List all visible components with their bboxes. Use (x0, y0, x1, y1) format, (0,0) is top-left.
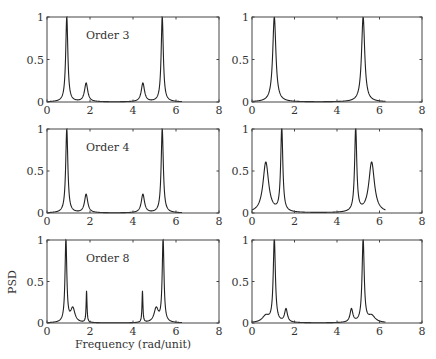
y-tick-label: 1 (242, 11, 249, 24)
x-tick-label: 4 (130, 215, 137, 228)
x-tick-label: 4 (130, 104, 137, 117)
x-tick-label: 0 (249, 325, 256, 338)
x-tick-label: 4 (334, 215, 341, 228)
x-tick-label: 6 (376, 104, 383, 117)
x-tick-label: 4 (334, 104, 341, 117)
subplot-3-1: 0246800.51Order 8 (27, 234, 223, 338)
x-tick-label: 6 (376, 215, 383, 228)
order-annotation: Order 4 (86, 141, 130, 154)
x-tick-label: 2 (87, 215, 94, 228)
x-tick-label: 8 (419, 325, 426, 338)
x-tick-label: 0 (44, 104, 51, 117)
y-axis-label: PSD (6, 270, 19, 294)
subplot-1-2: 0246800.51 (232, 11, 426, 117)
x-tick-label: 0 (249, 104, 256, 117)
y-tick-label: 1 (242, 123, 249, 136)
subplot-3-2: 0246800.51 (232, 234, 426, 338)
x-tick-label: 2 (87, 325, 94, 338)
order-annotation: Order 3 (86, 29, 130, 42)
y-tick-label: 1 (37, 234, 44, 247)
y-tick-label: 0 (37, 317, 44, 330)
x-tick-label: 8 (419, 215, 426, 228)
y-tick-label: 0.5 (27, 276, 45, 289)
x-tick-label: 6 (173, 104, 180, 117)
subplot-2-2: 0246800.51 (232, 123, 426, 228)
x-tick-label: 6 (173, 325, 180, 338)
y-tick-label: 1 (37, 11, 44, 24)
x-tick-label: 8 (216, 215, 223, 228)
y-tick-label: 0.5 (232, 276, 250, 289)
x-tick-label: 2 (291, 104, 298, 117)
y-tick-label: 0.5 (27, 165, 45, 178)
order-annotation: Order 8 (86, 252, 130, 265)
subplot-1-1: 0246800.51Order 3 (27, 11, 223, 117)
y-tick-label: 0.5 (27, 54, 45, 67)
psd-curve (252, 240, 385, 323)
x-tick-label: 0 (249, 215, 256, 228)
psd-curve (252, 129, 385, 212)
x-tick-label: 6 (173, 215, 180, 228)
axes-box (47, 240, 219, 323)
x-tick-label: 4 (334, 325, 341, 338)
y-tick-label: 1 (242, 234, 249, 247)
psd-curve (252, 17, 385, 102)
x-tick-label: 0 (44, 325, 51, 338)
x-axis-label: Frequency (rad/unit) (75, 338, 191, 351)
y-tick-label: 0.5 (232, 165, 250, 178)
y-tick-label: 0 (242, 317, 249, 330)
axes-box (47, 129, 219, 213)
y-tick-label: 0 (242, 207, 249, 220)
y-tick-label: 0.5 (232, 54, 250, 67)
y-tick-label: 1 (37, 123, 44, 136)
axes-box (47, 17, 219, 102)
x-tick-label: 8 (216, 104, 223, 117)
x-tick-label: 2 (291, 325, 298, 338)
subplot-grid: 0246800.51Order 30246800.510246800.51Ord… (27, 11, 426, 338)
x-tick-label: 2 (291, 215, 298, 228)
x-tick-label: 0 (44, 215, 51, 228)
x-tick-label: 8 (216, 325, 223, 338)
axes-box (252, 17, 422, 102)
x-tick-label: 2 (87, 104, 94, 117)
psd-figure: 0246800.51Order 30246800.510246800.51Ord… (0, 0, 436, 359)
x-tick-label: 6 (376, 325, 383, 338)
x-tick-label: 8 (419, 104, 426, 117)
subplot-2-1: 0246800.51Order 4 (27, 123, 223, 228)
y-tick-label: 0 (37, 207, 44, 220)
y-tick-label: 0 (37, 96, 44, 109)
y-tick-label: 0 (242, 96, 249, 109)
x-tick-label: 4 (130, 325, 137, 338)
